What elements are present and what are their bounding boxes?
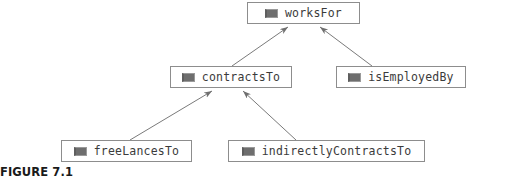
edge-freeLancesTo-contractsTo <box>130 91 212 140</box>
edge-indirectlyContractsTo-contractsTo <box>243 91 296 140</box>
node-indirectlyContractsTo[interactable]: indirectlyContractsTo <box>228 140 425 162</box>
property-icon <box>74 147 87 156</box>
node-label: worksFor <box>285 7 342 19</box>
property-icon <box>242 147 255 156</box>
node-label: indirectlyContractsTo <box>262 145 412 157</box>
node-freeLancesTo[interactable]: freeLancesTo <box>61 140 192 162</box>
edge-isEmployedBy-worksFor <box>320 27 372 66</box>
node-label: freeLancesTo <box>94 145 179 157</box>
node-worksFor[interactable]: worksFor <box>247 2 360 24</box>
node-label: contractsTo <box>202 71 280 83</box>
node-contractsTo[interactable]: contractsTo <box>170 66 292 88</box>
figure-diagram-canvas: worksFor contractsTo isEmployedBy freeLa… <box>0 0 505 180</box>
property-icon <box>348 73 361 82</box>
figure-caption: FIGURE 7.1 <box>0 165 73 179</box>
edge-contractsTo-worksFor <box>232 27 288 66</box>
node-label: isEmployedBy <box>368 71 453 83</box>
property-icon <box>182 73 195 82</box>
property-icon <box>265 9 278 18</box>
node-isEmployedBy[interactable]: isEmployedBy <box>336 66 466 88</box>
